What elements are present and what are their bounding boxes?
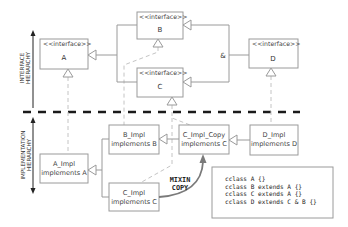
composition-symbol: & xyxy=(220,52,226,60)
class-name: A_Impl xyxy=(53,160,75,168)
realization-triangle-icon xyxy=(167,97,177,105)
code-line: cclass B extends A {} xyxy=(225,183,302,190)
inheritance-triangle-icon xyxy=(229,135,237,145)
stereotype: <<interface>> xyxy=(252,40,300,47)
arrow-down-icon xyxy=(31,188,36,194)
arrowhead-icon xyxy=(200,154,207,163)
code-line: cclass D extends C & B {} xyxy=(225,198,317,205)
interface-hierarchy-axis: INTERFACE HIERARCHY xyxy=(19,30,36,108)
mixin-label-line2: COPY xyxy=(172,184,189,192)
interface-b: <<interface>> B xyxy=(137,12,187,39)
class-name: C_Impl xyxy=(123,189,145,197)
implementation-hierarchy-axis: IMPLEMENTATION HIERARCHY xyxy=(20,117,36,194)
realization-triangle-icon xyxy=(63,69,73,77)
stereotype: <<interface>> xyxy=(139,69,187,76)
class-implements: implements C xyxy=(111,198,157,206)
class-name: B_Impl xyxy=(123,131,145,139)
class-implements: implements D xyxy=(251,140,297,148)
interface-c: <<interface>> C xyxy=(137,68,187,97)
realization-triangle-icon xyxy=(153,39,163,47)
realization-triangle-icon xyxy=(266,68,276,76)
class-implements: implements A xyxy=(41,169,87,177)
interface-a: <<interface>> A xyxy=(40,39,91,69)
mixin-diagram: INTERFACE HIERARCHY IMPLEMENTATION HIERA… xyxy=(0,0,348,227)
arrow-up-icon xyxy=(31,30,36,36)
class-b-impl: B_Impl implements B xyxy=(109,125,159,154)
class-name: D_Impl xyxy=(263,131,286,139)
class-a-impl: A_Impl implements A xyxy=(40,154,88,183)
interface-name: A xyxy=(62,54,67,62)
class-c-impl-copy: C_Impl_Copy implements C xyxy=(179,125,229,154)
code-line: cclass A {} xyxy=(225,175,266,182)
interface-name: B xyxy=(158,26,163,34)
stereotype: <<interface>> xyxy=(139,13,187,20)
interface-label-line2: HIERARCHY xyxy=(25,51,31,84)
inheritance-triangle-icon xyxy=(183,20,191,30)
inheritance-triangle-icon xyxy=(159,134,167,144)
c-impl-copy-implements-c xyxy=(172,105,190,125)
implements-links xyxy=(68,47,271,183)
interface-name: C xyxy=(158,83,163,91)
arrow-up-icon xyxy=(31,117,36,123)
mixin-copy-arrow: MIXIN COPY xyxy=(159,154,207,197)
class-name: C_Impl_Copy xyxy=(183,131,225,139)
implementation-label-line2: HIERARCHY xyxy=(26,138,32,171)
class-implements: implements B xyxy=(111,140,157,148)
class-d-impl: D_Impl implements D xyxy=(250,125,298,155)
inheritance-triangle-icon xyxy=(88,50,96,60)
code-listing: cclass A {} cclass B extends A {} cclass… xyxy=(212,167,333,218)
stereotype: <<interface>> xyxy=(43,40,91,47)
interface-d: <<interface>> D xyxy=(249,39,300,68)
class-c-impl: C_Impl implements C xyxy=(109,183,159,211)
class-implements: implements C xyxy=(181,140,227,148)
mixin-label-line1: MIXIN xyxy=(170,176,190,184)
inheritance-triangle-icon xyxy=(88,165,96,175)
code-line: cclass C extends A {} xyxy=(225,190,302,197)
interface-name: D xyxy=(270,55,275,63)
inheritance-triangle-icon xyxy=(183,77,191,87)
